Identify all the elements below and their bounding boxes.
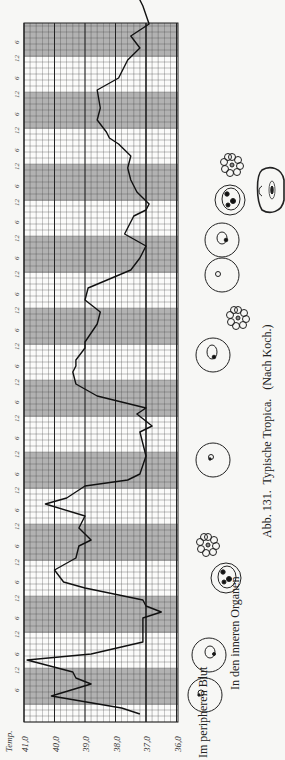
time-tick-label: 12	[13, 631, 21, 639]
ring-form-icon-5	[205, 258, 239, 292]
time-tick-label: 12	[13, 667, 21, 675]
caption-source: (Nach Koch.)	[260, 324, 274, 389]
schizont-icon-2	[215, 185, 245, 215]
label-inner-organs: In den inneren Organen	[228, 577, 243, 690]
ring-form-icon-3	[196, 443, 230, 477]
caption-title: Typische Tropica.	[260, 399, 274, 485]
time-tick-label: 6	[13, 400, 21, 404]
time-tick-label: 6	[13, 364, 21, 368]
time-tick-label: 6	[13, 328, 21, 332]
time-tick-label: 12	[13, 595, 21, 603]
time-tick-label: 12	[13, 163, 21, 171]
time-tick-label: 12	[13, 379, 21, 387]
temp-tick-label: 40,0	[51, 736, 61, 752]
ring-form-icon-6	[205, 223, 239, 257]
time-tick-label: 6	[13, 148, 21, 152]
temp-tick-label: 39,0	[81, 736, 91, 753]
temperature-axis-labels: 41,040,039,038,037,036,0Temp.	[4, 731, 183, 753]
ring-form-icon-4	[196, 338, 230, 372]
time-tick-label: 6	[13, 544, 21, 548]
rosette-icon-3	[221, 154, 244, 177]
time-tick-label: 12	[13, 199, 21, 207]
time-tick-label: 12	[13, 127, 21, 135]
time-tick-label: 6	[13, 580, 21, 584]
rosette-icon-2	[227, 307, 250, 330]
time-axis-labels: 6126126126126126126126126126126126126126…	[13, 40, 21, 692]
time-tick-label: 6	[13, 112, 21, 116]
time-tick-label: 12	[13, 559, 21, 567]
time-tick-label: 6	[13, 652, 21, 656]
caption-number: Abb. 131.	[260, 490, 274, 538]
temp-tick-label: 36,0	[173, 736, 183, 753]
time-tick-label: 6	[13, 220, 21, 224]
time-tick-label: 12	[13, 235, 21, 243]
temperature-figure: 41,040,039,038,037,036,0Temp. 6126126126…	[0, 0, 285, 760]
temp-axis-title: Temp.	[4, 731, 14, 752]
label-peripheral-blood: Im peripheren Blut	[196, 667, 211, 758]
time-tick-label: 6	[13, 472, 21, 476]
temp-tick-label: 37,0	[142, 736, 152, 753]
temp-tick-label: 38,0	[112, 736, 122, 753]
time-tick-label: 6	[13, 688, 21, 692]
time-tick-label: 6	[13, 184, 21, 188]
time-tick-label: 12	[13, 343, 21, 351]
temp-tick-label: 41,0	[20, 736, 30, 752]
figure-caption: Abb. 131. Typische Tropica. (Nach Koch.)	[260, 324, 275, 538]
rosette-icon-1	[197, 534, 220, 557]
time-tick-label: 6	[13, 616, 21, 620]
time-tick-label: 12	[13, 487, 21, 495]
time-tick-label: 6	[13, 256, 21, 260]
time-tick-label: 6	[13, 40, 21, 44]
crescent-gametocyte-icon	[258, 168, 285, 213]
time-tick-label: 12	[13, 451, 21, 459]
time-tick-label: 12	[13, 523, 21, 531]
time-tick-label: 6	[13, 76, 21, 80]
time-tick-label: 6	[13, 292, 21, 296]
time-tick-label: 12	[13, 415, 21, 423]
time-tick-label: 12	[13, 271, 21, 279]
time-tick-label: 12	[13, 55, 21, 63]
time-tick-label: 12	[13, 91, 21, 99]
time-tick-label: 6	[13, 508, 21, 512]
time-tick-label: 12	[13, 307, 21, 315]
time-tick-label: 6	[13, 436, 21, 440]
